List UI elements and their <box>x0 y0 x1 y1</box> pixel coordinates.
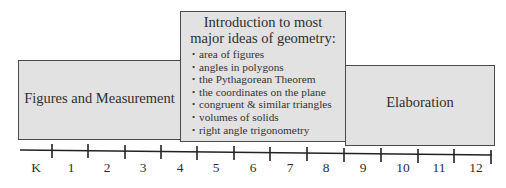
topic-item: •volumes of solids <box>192 111 345 124</box>
grade-label-5: 5 <box>213 160 220 176</box>
grade-label-4: 4 <box>177 160 184 176</box>
topic-text: right angle trigonometry <box>199 124 309 136</box>
stage-heading-line-2: major ideas of geometry: <box>181 30 345 46</box>
stage-title: Elaboration <box>386 94 454 111</box>
timeline-axis <box>20 150 492 155</box>
bullet-icon: • <box>192 48 199 61</box>
topic-item: •congruent & similar triangles <box>192 98 345 111</box>
grade-label-7: 7 <box>287 160 294 176</box>
timeline-ticks <box>52 144 491 164</box>
stage-heading-line-1: Introduction to most <box>181 14 345 30</box>
grade-label-6: 6 <box>250 160 257 176</box>
bullet-icon: • <box>192 61 199 74</box>
grade-label-2: 2 <box>104 160 111 176</box>
grade-label-8: 8 <box>323 160 330 176</box>
grade-label-11: 11 <box>433 160 446 176</box>
stage-box-elaboration: Elaboration <box>345 65 495 146</box>
topic-item: •angles in polygons <box>192 61 345 74</box>
grade-label-3: 3 <box>140 160 147 176</box>
topic-text: the Pythagorean Theorem <box>199 73 316 85</box>
bullet-icon: • <box>192 124 199 137</box>
topic-item: •right angle trigonometry <box>192 124 345 137</box>
bullet-icon: • <box>192 111 199 124</box>
grade-label-10: 10 <box>396 160 410 176</box>
grade-label-9: 9 <box>360 160 367 176</box>
bullet-icon: • <box>192 73 199 86</box>
topic-list: •area of figures •angles in polygons •th… <box>181 48 345 136</box>
topic-item: •the Pythagorean Theorem <box>192 73 345 86</box>
topic-item: •area of figures <box>192 48 345 61</box>
topic-text: area of figures <box>199 48 264 60</box>
stage-heading: Introduction to most major ideas of geom… <box>181 14 345 46</box>
bullet-icon: • <box>192 86 199 99</box>
bullet-icon: • <box>192 98 199 111</box>
topic-text: the coordinates on the plane <box>199 86 326 98</box>
topic-item: •the coordinates on the plane <box>192 86 345 99</box>
grade-label-k: K <box>31 160 41 176</box>
grade-label-1: 1 <box>68 160 75 176</box>
topic-text: volumes of solids <box>199 111 279 123</box>
grade-label-12: 12 <box>469 160 483 176</box>
topic-text: congruent & similar triangles <box>199 98 332 110</box>
stage-box-introduction: Introduction to most major ideas of geom… <box>180 11 346 142</box>
topic-text: angles in polygons <box>199 61 284 73</box>
stage-title: Figures and Measurement <box>24 90 175 107</box>
stage-box-figures-and-measurement: Figures and Measurement <box>18 60 181 140</box>
